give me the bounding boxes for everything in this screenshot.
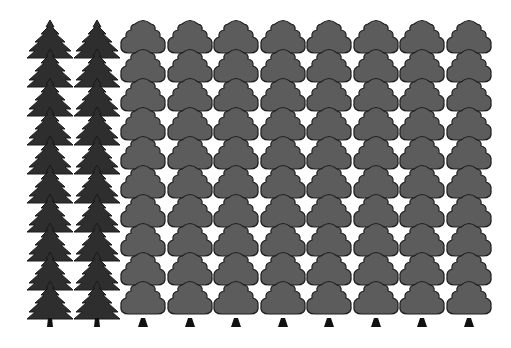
deciduous-tree-icon: [400, 195, 444, 228]
deciduous-tree-icon: [400, 253, 444, 286]
deciduous-tree-icon: [121, 137, 165, 170]
deciduous-tree-icon: [400, 166, 444, 199]
tree-trunk-icon: [185, 318, 195, 327]
deciduous-tree-icon: [307, 166, 351, 199]
deciduous-tree-icon: [447, 21, 491, 54]
deciduous-tree-icon: [168, 166, 212, 199]
deciduous-tree-icon: [168, 282, 212, 315]
deciduous-tree-icon: [354, 166, 398, 199]
deciduous-tree-icon: [261, 253, 305, 286]
tree-trunk-icon: [94, 318, 100, 327]
deciduous-tree-icon: [307, 253, 351, 286]
deciduous-tree-icon: [447, 166, 491, 199]
deciduous-tree-icon: [261, 79, 305, 112]
deciduous-tree-icon: [447, 253, 491, 286]
deciduous-tree-icon: [400, 79, 444, 112]
deciduous-tree-icon: [168, 79, 212, 112]
tree-trunk-icon: [324, 318, 334, 327]
deciduous-tree-icon: [307, 224, 351, 257]
tree-trunk-icon: [47, 318, 53, 327]
deciduous-tree-icon: [168, 224, 212, 257]
deciduous-tree-icon: [214, 79, 258, 112]
tree-trunk-icon: [231, 318, 241, 327]
deciduous-tree-icon: [214, 137, 258, 170]
tree-trunk-icon: [417, 318, 427, 327]
deciduous-tree-icon: [121, 79, 165, 112]
deciduous-tree-icon: [261, 224, 305, 257]
deciduous-tree-icon: [447, 50, 491, 83]
deciduous-tree-icon: [307, 137, 351, 170]
deciduous-tree-icon: [400, 21, 444, 54]
deciduous-tree-icon: [261, 21, 305, 54]
deciduous-tree-icon: [121, 166, 165, 199]
deciduous-tree-icon: [121, 108, 165, 141]
deciduous-tree-icon: [447, 282, 491, 315]
deciduous-tree-icon: [354, 224, 398, 257]
deciduous-tree-icon: [307, 21, 351, 54]
tree-trunk-icon: [278, 318, 288, 327]
deciduous-tree-icon: [307, 108, 351, 141]
deciduous-tree-icon: [354, 108, 398, 141]
deciduous-tree-icon: [214, 50, 258, 83]
deciduous-tree-icon: [354, 21, 398, 54]
deciduous-tree-icon: [400, 108, 444, 141]
deciduous-tree-icon: [261, 108, 305, 141]
deciduous-tree-icon: [354, 282, 398, 315]
tree-pictogram: [0, 0, 511, 348]
tree-trunk-icon: [371, 318, 381, 327]
deciduous-tree-icon: [261, 137, 305, 170]
deciduous-tree-icon: [121, 21, 165, 54]
deciduous-tree-icon: [307, 195, 351, 228]
deciduous-tree-icon: [261, 195, 305, 228]
deciduous-tree-icon: [447, 224, 491, 257]
deciduous-tree-icon: [214, 108, 258, 141]
deciduous-tree-icon: [121, 282, 165, 315]
deciduous-tree-icon: [121, 253, 165, 286]
tree-trunk-icon: [464, 318, 474, 327]
deciduous-tree-icon: [168, 137, 212, 170]
deciduous-tree-icon: [354, 50, 398, 83]
deciduous-tree-icon: [354, 137, 398, 170]
deciduous-tree-icon: [261, 50, 305, 83]
tree-trunk-icon: [138, 318, 148, 327]
deciduous-tree-icon: [447, 195, 491, 228]
deciduous-tree-icon: [400, 282, 444, 315]
deciduous-tree-icon: [447, 137, 491, 170]
deciduous-tree-icon: [307, 79, 351, 112]
deciduous-tree-icon: [354, 253, 398, 286]
deciduous-tree-icon: [168, 253, 212, 286]
deciduous-tree-icon: [354, 195, 398, 228]
deciduous-tree-icon: [354, 79, 398, 112]
deciduous-tree-icon: [447, 79, 491, 112]
deciduous-tree-icon: [121, 50, 165, 83]
deciduous-tree-icon: [214, 21, 258, 54]
deciduous-tree-icon: [168, 21, 212, 54]
deciduous-tree-icon: [168, 50, 212, 83]
deciduous-tree-icon: [214, 195, 258, 228]
deciduous-tree-icon: [400, 50, 444, 83]
deciduous-tree-icon: [214, 224, 258, 257]
deciduous-tree-icon: [168, 195, 212, 228]
deciduous-tree-icon: [214, 253, 258, 286]
deciduous-tree-icon: [261, 282, 305, 315]
deciduous-tree-icon: [214, 166, 258, 199]
deciduous-tree-icon: [261, 166, 305, 199]
deciduous-tree-icon: [307, 50, 351, 83]
deciduous-tree-icon: [400, 224, 444, 257]
deciduous-tree-icon: [121, 224, 165, 257]
deciduous-tree-icon: [168, 108, 212, 141]
deciduous-tree-icon: [121, 195, 165, 228]
deciduous-tree-icon: [307, 282, 351, 315]
deciduous-tree-icon: [214, 282, 258, 315]
deciduous-tree-icon: [447, 108, 491, 141]
deciduous-tree-icon: [400, 137, 444, 170]
